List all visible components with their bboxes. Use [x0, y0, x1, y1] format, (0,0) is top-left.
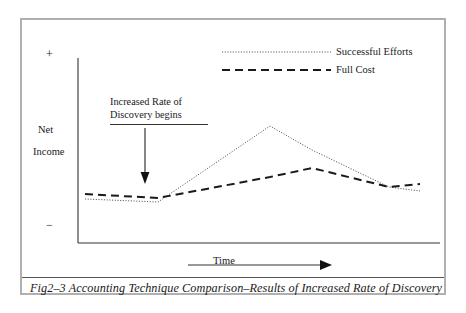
annotation-text: Increased Rate of Discovery begins	[110, 96, 182, 121]
y-axis-tick-negative: −	[46, 218, 53, 233]
legend-label-successful-efforts: Successful Efforts	[336, 46, 413, 57]
x-axis-title: Time	[213, 255, 235, 266]
figure-caption: Fig2–3 Accounting Technique Comparison–R…	[30, 280, 446, 296]
legend-label-full-cost: Full Cost	[336, 64, 375, 75]
annotation-text-line-1: Increased Rate of	[110, 96, 182, 109]
annotation-underline	[110, 124, 208, 125]
series-line-full-cost	[85, 168, 420, 198]
annotation-arrow-head	[141, 172, 150, 184]
time-arrow-head	[320, 260, 332, 270]
y-axis-title-line-2: Income	[33, 146, 65, 157]
series-line-successful-efforts	[85, 126, 420, 202]
annotation-text-line-2: Discovery begins	[110, 109, 182, 122]
y-axis-title-line-1: Net	[38, 124, 53, 135]
caption-separator	[22, 277, 444, 278]
y-axis-tick-positive: +	[46, 47, 53, 62]
figure-container: + − Net Income Time Increased Rate of Di…	[0, 0, 466, 313]
